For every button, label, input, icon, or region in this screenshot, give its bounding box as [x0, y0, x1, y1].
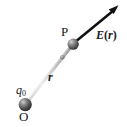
rod-bead-marker	[60, 55, 65, 60]
label-q-subscript: 0	[22, 89, 26, 98]
label-origin-O: O	[19, 110, 28, 123]
label-close-paren: )	[113, 28, 117, 42]
electric-field-diagram: P O q0 r E(r)	[0, 0, 127, 127]
label-field-vector-E-of-r: E(r)	[96, 29, 117, 41]
field-point-sphere	[68, 39, 79, 50]
diagram-canvas	[0, 0, 127, 127]
label-position-vector-r: r	[48, 71, 53, 83]
label-source-charge-q0: q0	[16, 84, 26, 98]
label-E-symbol: E	[96, 28, 104, 42]
label-field-point-P: P	[61, 25, 68, 38]
